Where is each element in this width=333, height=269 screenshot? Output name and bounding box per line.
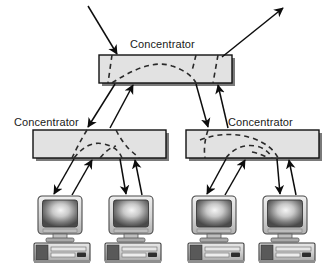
monitor-stand <box>46 234 74 242</box>
monitor-stand <box>271 234 299 242</box>
access-left-to-ws2-arrow <box>120 159 126 194</box>
access-left-to-ws1-arrow <box>54 159 74 194</box>
access-ws2-to-left-arrow <box>135 160 142 195</box>
access-right-to-ws4-arrow <box>277 159 280 194</box>
monitor <box>109 196 153 234</box>
trunk-left-to-top-arrow <box>110 85 133 128</box>
computer-case <box>188 243 244 263</box>
uplink-inbound-arrow <box>88 6 117 54</box>
workstation-2[interactable] <box>105 196 161 263</box>
monitor <box>38 196 82 234</box>
computer-case <box>259 243 315 263</box>
access-links <box>54 159 296 195</box>
computer-case <box>34 243 90 263</box>
access-right-to-ws3-arrow <box>207 159 226 194</box>
right-concentrator-label: Concentrator <box>228 116 293 128</box>
monitor-stand <box>200 234 228 242</box>
top-concentrator-label: Concentrator <box>130 38 195 50</box>
left-concentrator-label: Concentrator <box>14 116 79 128</box>
access-ws1-to-left-arrow <box>72 160 92 195</box>
uplink-outbound-arrow <box>222 8 283 57</box>
access-ws4-to-right-arrow <box>289 160 296 195</box>
monitor <box>192 196 236 234</box>
trunk-links <box>88 84 228 128</box>
monitor <box>263 196 307 234</box>
trunk-top-to-left-arrow <box>88 84 115 127</box>
monitor-stand <box>117 234 145 242</box>
computer-case <box>105 243 161 263</box>
workstation-1[interactable] <box>34 196 90 263</box>
trunk-top-to-right-arrow <box>196 84 208 127</box>
network-topology-diagram: Concentrator Concentrator Concentrator <box>0 0 333 269</box>
top-concentrator[interactable]: Concentrator <box>99 38 235 86</box>
top-concentrator-box <box>99 55 232 83</box>
trunk-right-to-top-arrow <box>218 85 228 128</box>
workstation-4[interactable] <box>259 196 315 263</box>
workstation-3[interactable] <box>188 196 244 263</box>
access-ws3-to-right-arrow <box>225 160 245 195</box>
